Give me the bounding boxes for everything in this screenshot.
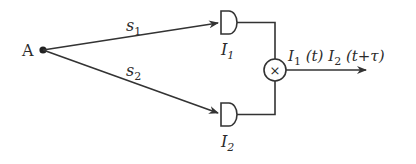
multiplier-symbol: ×: [270, 63, 281, 78]
detector-2-icon: [221, 103, 237, 126]
source-label: A: [21, 41, 34, 60]
output-label: I1 (t) I2 (t+τ): [287, 47, 385, 68]
detector-1-wire: [237, 23, 275, 60]
path-s2-arrow: [43, 50, 218, 113]
detector-2-label: I2: [220, 132, 234, 154]
path-s2-label: s2: [126, 61, 141, 83]
path-s1-label: s1: [126, 16, 141, 38]
hbt-correlation-diagram: A s1 s2 I1 I2 × I1 (t) I2 (t+τ): [0, 0, 416, 164]
detector-1-label: I1: [220, 40, 234, 62]
detector-1-icon: [221, 11, 237, 34]
detector-2-wire: [237, 81, 275, 115]
